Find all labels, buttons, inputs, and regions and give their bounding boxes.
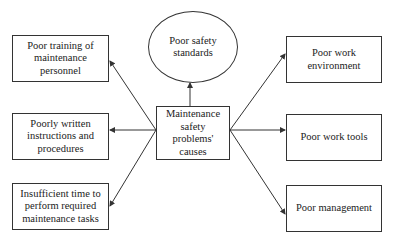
- node-poorly-written-instructions: Poorly written instructions and procedur…: [12, 113, 109, 160]
- node-poor-work-tools: Poor work tools: [286, 114, 382, 161]
- node-center-causes: Maintenance safety problems' causes: [156, 106, 230, 160]
- node-label: Insufficient time to perform required ma…: [20, 188, 100, 226]
- node-label: Maintenance safety problems' causes: [166, 108, 220, 158]
- node-label: Poor training of maintenance personnel: [27, 40, 94, 78]
- arrow-to-right-3: [230, 130, 285, 214]
- node-poor-work-environment: Poor work environment: [286, 36, 382, 83]
- node-label: Poor work tools: [300, 131, 367, 144]
- node-label: Poorly written instructions and procedur…: [27, 118, 94, 156]
- node-poor-management: Poor management: [286, 185, 382, 232]
- arrow-to-left-1: [110, 61, 156, 130]
- node-poor-safety-standards: Poor safety standards: [148, 11, 238, 83]
- arrow-to-right-1: [230, 54, 285, 130]
- arrow-to-left-3: [110, 130, 156, 206]
- node-label: Poor safety standards: [169, 35, 217, 60]
- node-label: Poor management: [296, 202, 372, 215]
- node-label: Poor work environment: [307, 47, 360, 72]
- node-insufficient-time: Insufficient time to perform required ma…: [12, 183, 109, 230]
- node-poor-training: Poor training of maintenance personnel: [12, 35, 109, 82]
